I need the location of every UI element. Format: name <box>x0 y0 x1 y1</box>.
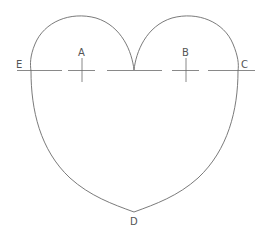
label-a: A <box>78 47 85 58</box>
label-b: B <box>182 47 189 58</box>
heart-outline <box>30 16 238 212</box>
label-e: E <box>16 59 22 70</box>
label-c: C <box>241 59 248 70</box>
label-d: D <box>130 216 138 227</box>
heart-diagram: A B C D E <box>0 0 267 236</box>
